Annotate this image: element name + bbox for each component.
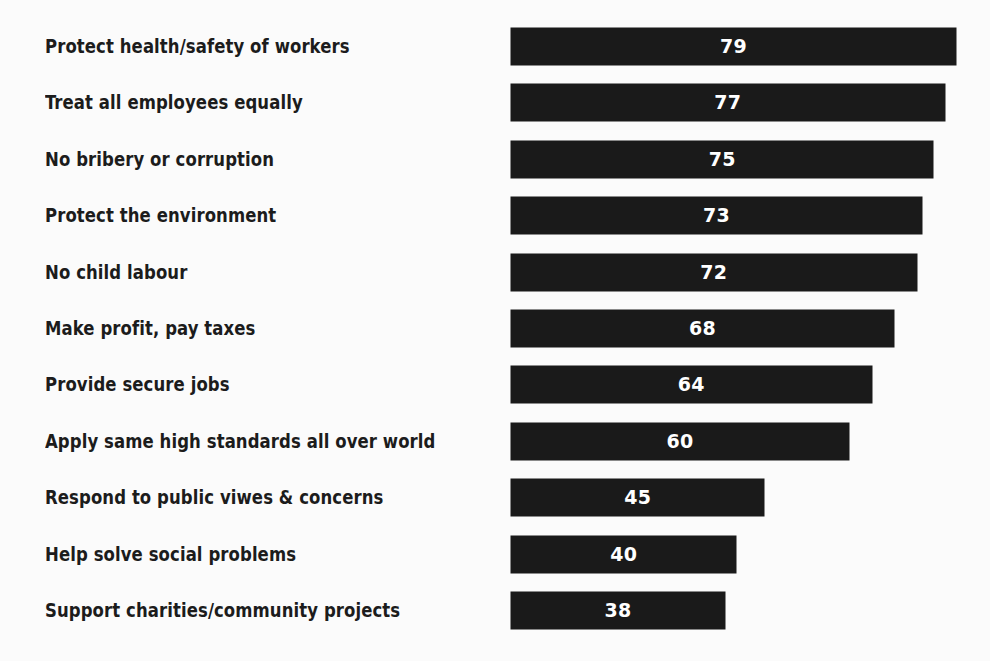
category-label: Protect health/safety of workers — [45, 28, 473, 65]
bar-track: 75 — [511, 141, 981, 178]
bar-track: 68 — [511, 310, 981, 347]
bar-track: 73 — [511, 197, 981, 234]
chart-row: Help solve social problems40 — [0, 536, 990, 573]
bar-value-label: 79 — [720, 28, 747, 65]
bar-value-label: 38 — [604, 592, 631, 629]
bar-track: 60 — [511, 423, 981, 460]
chart-rows: Protect health/safety of workers79Treat … — [0, 0, 990, 661]
chart-row: Apply same high standards all over world… — [0, 423, 990, 460]
bar-track: 72 — [511, 254, 981, 291]
bar-track: 64 — [511, 366, 981, 403]
category-label: Provide secure jobs — [45, 366, 473, 403]
bar-track: 77 — [511, 84, 981, 121]
bar-track: 45 — [511, 479, 981, 516]
chart-row: Respond to public viwes & concerns45 — [0, 479, 990, 516]
bar-chart: Protect health/safety of workers79Treat … — [0, 0, 990, 661]
chart-row: No child labour72 — [0, 254, 990, 291]
chart-row: Protect health/safety of workers79 — [0, 28, 990, 65]
bar-value-label: 60 — [666, 423, 693, 460]
category-label: Treat all employees equally — [45, 84, 473, 121]
bar-track: 79 — [511, 28, 981, 65]
bar-value-label: 64 — [678, 366, 705, 403]
category-label: No bribery or corruption — [45, 141, 473, 178]
bar-value-label: 75 — [709, 141, 736, 178]
category-label: Respond to public viwes & concerns — [45, 479, 473, 516]
bar-value-label: 68 — [689, 310, 716, 347]
bar-value-label: 73 — [703, 197, 730, 234]
bar-value-label: 77 — [714, 84, 741, 121]
bar-value-label: 40 — [610, 536, 637, 573]
bar-track: 40 — [511, 536, 981, 573]
category-label: No child labour — [45, 254, 473, 291]
category-label: Help solve social problems — [45, 536, 473, 573]
category-label: Support charities/community projects — [45, 592, 473, 629]
bar-value-label: 45 — [624, 479, 651, 516]
chart-row: Make profit, pay taxes68 — [0, 310, 990, 347]
category-label: Apply same high standards all over world — [45, 423, 473, 460]
category-label: Make profit, pay taxes — [45, 310, 473, 347]
chart-row: Treat all employees equally77 — [0, 84, 990, 121]
chart-row: No bribery or corruption75 — [0, 141, 990, 178]
chart-row: Provide secure jobs64 — [0, 366, 990, 403]
bar-value-label: 72 — [700, 254, 727, 291]
category-label: Protect the environment — [45, 197, 473, 234]
bar-track: 38 — [511, 592, 981, 629]
chart-row: Support charities/community projects38 — [0, 592, 990, 629]
chart-row: Protect the environment73 — [0, 197, 990, 234]
